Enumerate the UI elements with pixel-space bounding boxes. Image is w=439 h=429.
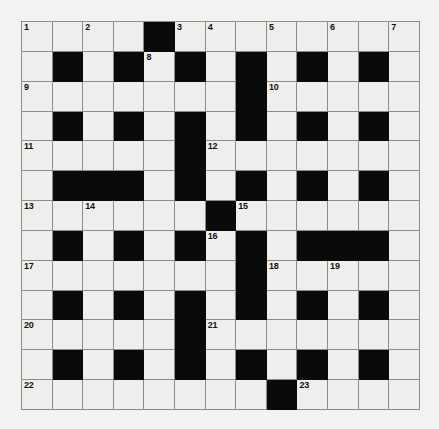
letter-cell[interactable]	[236, 320, 267, 350]
letter-cell[interactable]	[267, 112, 298, 142]
letter-cell[interactable]	[53, 201, 84, 231]
letter-cell[interactable]	[144, 231, 175, 261]
letter-cell[interactable]	[175, 380, 206, 410]
letter-cell[interactable]	[22, 52, 53, 82]
letter-cell[interactable]	[389, 320, 420, 350]
letter-cell[interactable]	[206, 82, 237, 112]
letter-cell[interactable]: 21	[206, 320, 237, 350]
letter-cell[interactable]: 12	[206, 141, 237, 171]
letter-cell[interactable]: 11	[22, 141, 53, 171]
letter-cell[interactable]	[144, 350, 175, 380]
letter-cell[interactable]	[114, 141, 145, 171]
letter-cell[interactable]	[114, 320, 145, 350]
letter-cell[interactable]	[359, 320, 390, 350]
letter-cell[interactable]: 17	[22, 261, 53, 291]
letter-cell[interactable]	[83, 82, 114, 112]
letter-cell[interactable]	[53, 320, 84, 350]
letter-cell[interactable]	[236, 141, 267, 171]
letter-cell[interactable]	[359, 201, 390, 231]
letter-cell[interactable]	[359, 141, 390, 171]
letter-cell[interactable]	[389, 141, 420, 171]
letter-cell[interactable]	[328, 52, 359, 82]
letter-cell[interactable]: 5	[267, 22, 298, 52]
letter-cell[interactable]	[144, 261, 175, 291]
letter-cell[interactable]	[297, 82, 328, 112]
letter-cell[interactable]	[328, 380, 359, 410]
letter-cell[interactable]	[175, 82, 206, 112]
letter-cell[interactable]	[328, 201, 359, 231]
letter-cell[interactable]	[144, 112, 175, 142]
letter-cell[interactable]	[206, 261, 237, 291]
letter-cell[interactable]	[389, 112, 420, 142]
letter-cell[interactable]: 16	[206, 231, 237, 261]
letter-cell[interactable]	[144, 291, 175, 321]
letter-cell[interactable]	[83, 380, 114, 410]
letter-cell[interactable]	[359, 82, 390, 112]
letter-cell[interactable]	[83, 231, 114, 261]
letter-cell[interactable]	[328, 320, 359, 350]
letter-cell[interactable]	[83, 320, 114, 350]
letter-cell[interactable]	[328, 171, 359, 201]
letter-cell[interactable]: 1	[22, 22, 53, 52]
letter-cell[interactable]	[114, 380, 145, 410]
letter-cell[interactable]: 14	[83, 201, 114, 231]
letter-cell[interactable]	[389, 171, 420, 201]
crossword-grid[interactable]: 1234567891011121314151617181920212223	[21, 21, 420, 410]
letter-cell[interactable]	[267, 201, 298, 231]
letter-cell[interactable]	[206, 171, 237, 201]
letter-cell[interactable]	[83, 52, 114, 82]
letter-cell[interactable]	[389, 291, 420, 321]
letter-cell[interactable]	[389, 350, 420, 380]
letter-cell[interactable]	[359, 261, 390, 291]
letter-cell[interactable]	[22, 171, 53, 201]
letter-cell[interactable]	[328, 82, 359, 112]
letter-cell[interactable]	[297, 201, 328, 231]
letter-cell[interactable]	[328, 291, 359, 321]
letter-cell[interactable]	[267, 350, 298, 380]
letter-cell[interactable]	[359, 22, 390, 52]
letter-cell[interactable]	[53, 22, 84, 52]
letter-cell[interactable]	[53, 380, 84, 410]
letter-cell[interactable]	[53, 141, 84, 171]
letter-cell[interactable]	[175, 201, 206, 231]
letter-cell[interactable]: 3	[175, 22, 206, 52]
letter-cell[interactable]	[267, 231, 298, 261]
letter-cell[interactable]	[389, 201, 420, 231]
letter-cell[interactable]: 15	[236, 201, 267, 231]
letter-cell[interactable]: 2	[83, 22, 114, 52]
letter-cell[interactable]	[206, 380, 237, 410]
letter-cell[interactable]	[297, 261, 328, 291]
letter-cell[interactable]: 22	[22, 380, 53, 410]
letter-cell[interactable]	[359, 380, 390, 410]
letter-cell[interactable]	[267, 141, 298, 171]
letter-cell[interactable]	[267, 52, 298, 82]
letter-cell[interactable]	[328, 112, 359, 142]
letter-cell[interactable]	[389, 261, 420, 291]
letter-cell[interactable]: 20	[22, 320, 53, 350]
letter-cell[interactable]	[236, 22, 267, 52]
letter-cell[interactable]	[267, 291, 298, 321]
letter-cell[interactable]: 8	[144, 52, 175, 82]
letter-cell[interactable]	[83, 141, 114, 171]
letter-cell[interactable]	[83, 261, 114, 291]
letter-cell[interactable]	[206, 291, 237, 321]
letter-cell[interactable]	[206, 52, 237, 82]
letter-cell[interactable]	[175, 261, 206, 291]
letter-cell[interactable]	[206, 350, 237, 380]
letter-cell[interactable]	[236, 380, 267, 410]
letter-cell[interactable]	[144, 201, 175, 231]
letter-cell[interactable]	[206, 112, 237, 142]
letter-cell[interactable]	[114, 201, 145, 231]
letter-cell[interactable]	[267, 171, 298, 201]
letter-cell[interactable]	[144, 171, 175, 201]
letter-cell[interactable]	[83, 291, 114, 321]
letter-cell[interactable]: 9	[22, 82, 53, 112]
letter-cell[interactable]	[83, 112, 114, 142]
letter-cell[interactable]: 4	[206, 22, 237, 52]
letter-cell[interactable]	[144, 320, 175, 350]
letter-cell[interactable]: 18	[267, 261, 298, 291]
letter-cell[interactable]	[144, 82, 175, 112]
letter-cell[interactable]: 7	[389, 22, 420, 52]
letter-cell[interactable]	[144, 141, 175, 171]
letter-cell[interactable]: 6	[328, 22, 359, 52]
